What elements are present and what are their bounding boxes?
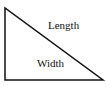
width-label: Width bbox=[37, 57, 65, 69]
triangle-diagram: Length Width bbox=[0, 0, 106, 88]
length-label: Length bbox=[48, 19, 80, 31]
